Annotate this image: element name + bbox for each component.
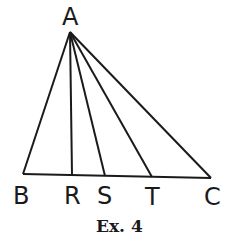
- segment-AB: [23, 32, 70, 174]
- triangle-diagram: A B R S T C Ex. 4: [0, 0, 233, 242]
- base-line-BC: [23, 174, 211, 178]
- segments: [23, 32, 211, 178]
- label-C: C: [204, 183, 221, 211]
- label-S: S: [97, 182, 112, 210]
- label-R: R: [64, 182, 81, 210]
- label-A: A: [62, 3, 79, 31]
- label-B: B: [13, 182, 29, 210]
- segment-AS: [70, 32, 105, 176]
- segment-AR: [70, 32, 72, 175]
- caption: Ex. 4: [96, 216, 143, 236]
- label-T: T: [144, 183, 160, 211]
